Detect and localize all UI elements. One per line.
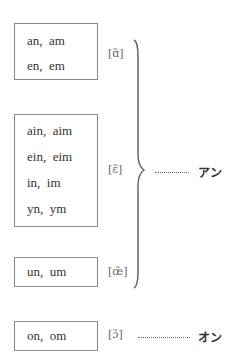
leader-dots-an	[155, 172, 189, 173]
spelling-in: in, im	[27, 175, 61, 191]
ipa-o-nasal: [ɔ̃]	[108, 328, 123, 341]
spelling-un: un, um	[27, 264, 66, 280]
ipa-e-nasal: [ɛ̃]	[108, 163, 122, 176]
spelling-box-a: an, am en, em	[14, 23, 98, 80]
spelling-ain: ain, aim	[27, 123, 72, 139]
reading-on: オン	[198, 328, 222, 345]
spelling-box-e: ain, aim ein, eim in, im yn, ym	[14, 114, 98, 227]
ipa-oe-nasal: [œ̃]	[108, 265, 127, 278]
spelling-en: en, em	[27, 58, 65, 74]
curly-brace-icon	[128, 36, 148, 292]
reading-an: アン	[198, 163, 222, 180]
ipa-a-nasal: [ɑ̃]	[108, 47, 124, 60]
spelling-box-un: un, um	[14, 257, 98, 287]
spelling-on: on, om	[27, 328, 66, 344]
spelling-an: an, am	[27, 33, 65, 49]
spelling-ein: ein, eim	[27, 149, 72, 165]
leader-dots-on	[138, 337, 190, 338]
spelling-box-on: on, om	[14, 321, 98, 351]
spelling-yn: yn, ym	[27, 201, 66, 217]
